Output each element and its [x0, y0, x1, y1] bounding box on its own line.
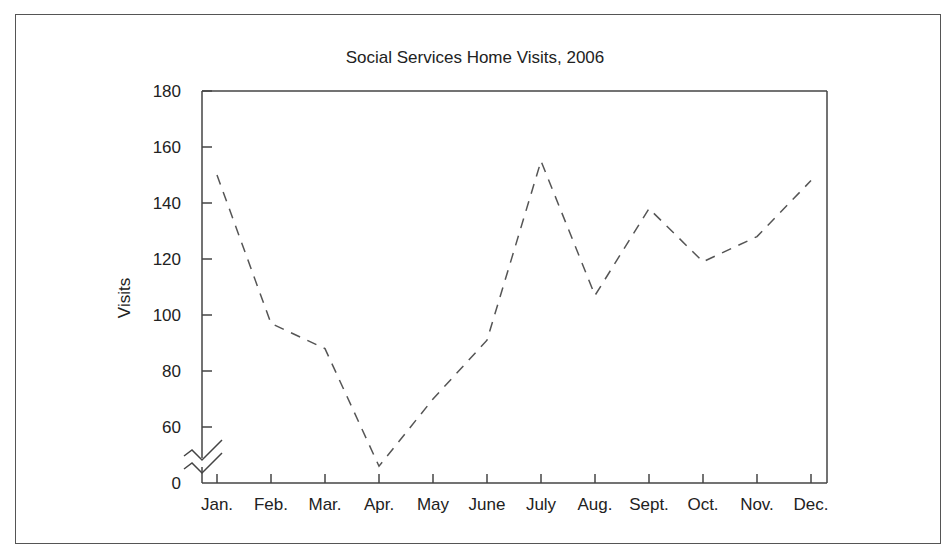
axis-break-mark	[184, 453, 222, 473]
data-line-visits	[217, 161, 811, 466]
x-tick-label: Apr.	[364, 495, 394, 514]
line-chart: 06080100120140160180Jan.Feb.Mar.Apr.MayJ…	[0, 0, 950, 558]
x-tick-label: Jan.	[201, 495, 233, 514]
y-tick-label: 120	[153, 250, 181, 269]
y-tick-label: 140	[153, 194, 181, 213]
x-tick-label: Aug.	[578, 495, 613, 514]
y-tick-label: 100	[153, 306, 181, 325]
x-tick-label: Sept.	[629, 495, 669, 514]
x-tick-label: May	[417, 495, 450, 514]
y-tick-label: 160	[153, 138, 181, 157]
x-tick-label: Mar.	[308, 495, 341, 514]
x-tick-label: Nov.	[740, 495, 774, 514]
y-tick-label: 60	[162, 418, 181, 437]
x-tick-label: Oct.	[687, 495, 718, 514]
y-tick-label: 80	[162, 362, 181, 381]
x-tick-label: June	[469, 495, 506, 514]
x-tick-label: Dec.	[794, 495, 829, 514]
x-tick-label: Feb.	[254, 495, 288, 514]
x-tick-label: July	[526, 495, 557, 514]
axis-break-mark	[184, 440, 222, 460]
y-tick-label: 0	[172, 474, 181, 493]
y-tick-label: 180	[153, 82, 181, 101]
